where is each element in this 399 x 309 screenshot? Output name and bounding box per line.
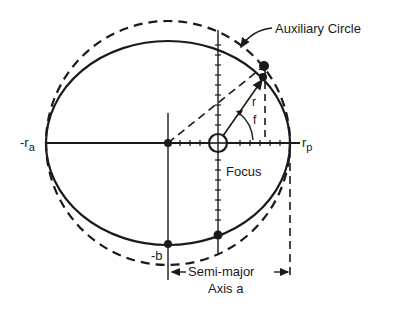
minus-b-point bbox=[164, 240, 172, 248]
minus-b-label: -b bbox=[151, 248, 163, 263]
auxiliary-circle-callout bbox=[241, 28, 272, 47]
semi-major-label-line2: Axis a bbox=[208, 281, 244, 296]
semi-major-label-line1: Semi-major bbox=[188, 264, 255, 279]
radius-label: r bbox=[252, 95, 256, 109]
ellipse-center-point bbox=[164, 139, 172, 147]
true-anomaly-label: f bbox=[253, 113, 257, 127]
focus-label: Focus bbox=[226, 164, 262, 179]
orbit-point bbox=[259, 73, 267, 81]
auxiliary-circle-label: Auxiliary Circle bbox=[275, 21, 361, 36]
orbit-diagram: Auxiliary Circle -ra rp r f Focus -b Sem… bbox=[0, 0, 399, 309]
auxiliary-circle-point bbox=[259, 61, 269, 71]
true-anomaly-arc bbox=[239, 113, 253, 140]
periapsis-label: rp bbox=[302, 135, 312, 153]
focus-axis-bottom-point bbox=[214, 231, 223, 240]
apoapsis-label: -ra bbox=[20, 135, 36, 153]
